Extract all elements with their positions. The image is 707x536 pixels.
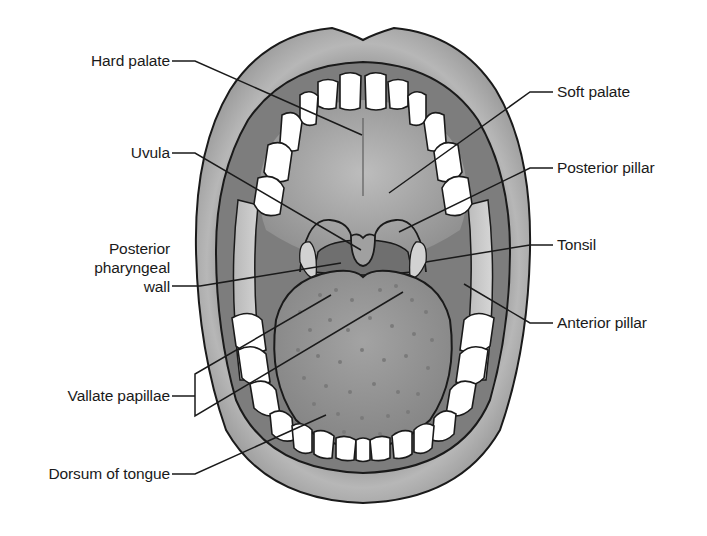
label-line: Posterior xyxy=(70,239,170,258)
label-anterior-pillar: Anterior pillar xyxy=(557,314,647,332)
label-tonsil: Tonsil xyxy=(557,236,596,254)
label-vallate-papillae: Vallate papillae xyxy=(40,387,170,405)
label-hard-palate: Hard palate xyxy=(76,52,170,70)
tongue xyxy=(274,271,452,448)
label-uvula: Uvula xyxy=(110,144,170,162)
label-soft-palate: Soft palate xyxy=(557,83,630,101)
label-line: pharyngeal xyxy=(70,258,170,277)
label-posterior-pillar: Posterior pillar xyxy=(557,159,654,177)
label-line: wall xyxy=(70,277,170,296)
mouth-anatomy-diagram: Hard palate Uvula Posterior pharyngeal w… xyxy=(0,0,707,536)
label-posterior-pharyngeal-wall: Posterior pharyngeal wall xyxy=(70,239,170,296)
label-dorsum-of-tongue: Dorsum of tongue xyxy=(20,465,170,483)
